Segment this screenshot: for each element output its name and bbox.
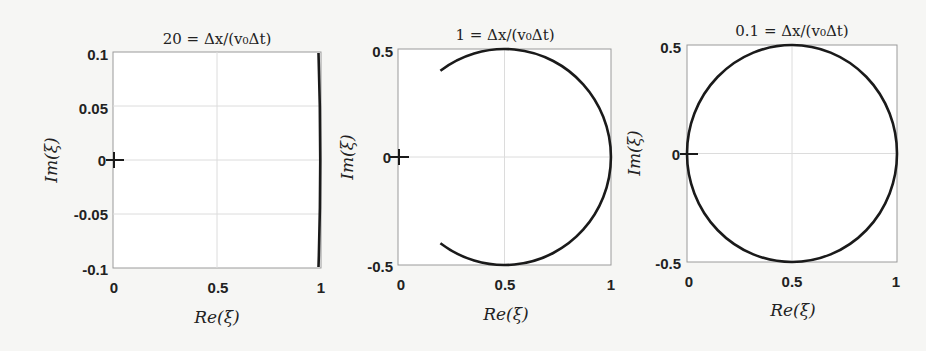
y-tick: 0.1 xyxy=(87,46,108,63)
x-axis-label: Re(ξ) xyxy=(482,304,529,324)
panel-3: 0.1 = Δx/(v₀Δt) 0.5 0 -0.5 0 0.5 1 Re(ξ)… xyxy=(624,22,900,320)
x-tick: 0.5 xyxy=(782,273,803,290)
x-tick: 0.5 xyxy=(495,276,516,293)
x-axis-label: Re(ξ) xyxy=(769,300,816,320)
y-tick: -0.05 xyxy=(74,206,108,223)
y-tick: 0.5 xyxy=(660,39,681,56)
figure: 20 = Δx/(v₀Δt) 0.1 0.05 0 -0.05 -0.1 0 0… xyxy=(0,0,926,351)
x-tick: 0 xyxy=(110,279,118,296)
x-tick: 1 xyxy=(607,276,615,293)
y-axis-label: Im(ξ) xyxy=(624,130,644,176)
x-tick: 0 xyxy=(397,276,405,293)
panel-title: 0.1 = Δx/(v₀Δt) xyxy=(735,22,848,40)
panel-1: 20 = Δx/(v₀Δt) 0.1 0.05 0 -0.05 -0.1 0 0… xyxy=(41,30,325,327)
y-axis-label: Im(ξ) xyxy=(41,137,61,183)
x-tick: 1 xyxy=(317,279,325,296)
x-axis-label: Re(ξ) xyxy=(193,307,240,327)
y-tick: 0 xyxy=(383,149,391,166)
x-tick: 0 xyxy=(685,273,693,290)
panel-title: 1 = Δx/(v₀Δt) xyxy=(455,26,554,44)
y-tick: 0.5 xyxy=(372,43,393,60)
y-tick: 0.05 xyxy=(79,100,108,117)
y-tick: 0 xyxy=(98,152,106,169)
panel-2: 1 = Δx/(v₀Δt) 0.5 0 -0.5 0 0.5 1 Re(ξ) I… xyxy=(337,26,615,324)
y-tick: -0.5 xyxy=(367,258,393,275)
y-tick: -0.5 xyxy=(655,255,681,272)
panel-title: 20 = Δx/(v₀Δt) xyxy=(163,30,272,48)
y-axis-label: Im(ξ) xyxy=(337,134,357,180)
x-tick: 0.5 xyxy=(208,279,229,296)
y-tick: 0 xyxy=(672,146,680,163)
y-tick: -0.1 xyxy=(82,261,108,278)
x-tick: 1 xyxy=(892,273,900,290)
